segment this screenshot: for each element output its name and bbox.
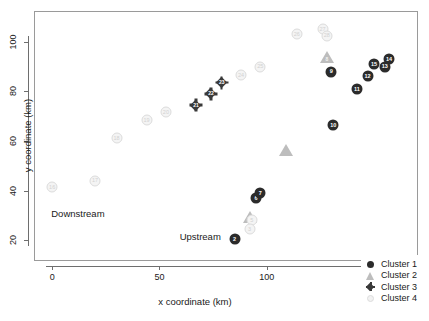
x-axis-tick-label: 0 [50,272,55,282]
point-label: 8 [324,57,330,62]
x-axis-line [46,266,380,267]
point-label: 11 [354,86,360,92]
y-axis-tick-label: 40 [8,182,18,200]
marker-c1: 12 [362,71,373,82]
legend: Cluster 1 Cluster 2 Cluster 3 Cluster 4 [361,255,421,308]
marker-c4: 3 [244,224,255,235]
point-label: 17 [92,178,98,184]
point-label: 14 [386,56,392,62]
plot-annotation: Downstream [51,207,104,218]
marker-c4: 24 [236,70,247,81]
data-point: 28 [321,30,332,41]
y-axis-tick-label: 80 [8,82,18,100]
marker-c4: 19 [141,114,152,125]
marker-c1: 11 [351,83,362,94]
data-point: 17 [90,175,101,186]
data-point: 19 [141,114,152,125]
scatter-plot-figure: 05010015020406080100 2679101112151314482… [0,0,429,321]
marker-c2 [279,144,293,156]
filled-circle-icon [364,258,378,269]
point-label: 2 [233,236,236,242]
x-axis-tick [159,266,160,270]
legend-item-cluster-2[interactable]: Cluster 2 [364,270,417,281]
point-label: 23 [216,80,227,85]
data-point: 3 [244,224,255,235]
y-axis-tick [24,42,28,43]
y-axis-tick-label: 100 [8,33,18,51]
point-label: 21 [190,102,201,107]
x-axis-tick-label: 100 [259,272,274,282]
marker-c1: 15 [369,59,380,70]
legend-item-cluster-4[interactable]: Cluster 4 [364,293,417,304]
data-point: 26 [291,29,302,40]
point-label: 28 [324,33,330,39]
filled-triangle-icon [364,270,378,281]
data-point: 11 [351,83,362,94]
point-label: 19 [144,117,150,123]
data-point: 7 [255,188,266,199]
marker-c3: 23 [216,77,227,88]
data-point: 14 [384,54,395,65]
point-label: 3 [248,226,251,232]
point-label: 16 [49,184,55,190]
legend-label: Cluster 3 [381,282,417,292]
point-label: 24 [238,72,244,78]
point-label: 10 [330,122,336,128]
point-label: 15 [371,61,377,67]
marker-c3: 22 [205,88,216,99]
data-point: 18 [111,133,122,144]
data-point [279,144,293,156]
marker-c2: 8 [320,51,334,63]
marker-c1: 9 [326,66,337,77]
point-label: 25 [257,64,263,70]
legend-label: Cluster 2 [381,270,417,280]
marker-c1: 2 [229,233,240,244]
marker-c4: 18 [111,133,122,144]
legend-label: Cluster 1 [381,259,417,269]
y-axis-tick-label: 20 [8,231,18,249]
y-axis-title: y coordinate (km) [22,81,33,191]
plot-area-frame [34,11,418,261]
point-label: 5 [250,218,253,224]
data-point: 25 [255,61,266,72]
legend-item-cluster-1[interactable]: Cluster 1 [364,258,417,269]
y-axis-tick-label: 60 [8,132,18,150]
data-point: 12 [362,71,373,82]
x-axis-tick [52,266,53,270]
legend-label: Cluster 4 [381,293,417,303]
marker-c4: 17 [90,175,101,186]
marker-c4: 25 [255,61,266,72]
y-axis-tick [24,240,28,241]
marker-c4: 20 [160,107,171,118]
open-circle-icon [364,293,378,304]
point-label: 9 [330,69,333,75]
data-point: 15 [369,59,380,70]
marker-c4: 28 [321,30,332,41]
plot-annotation: Upstream [180,231,221,242]
data-point: 16 [47,181,58,192]
x-axis-tick-label: 50 [154,272,164,282]
data-point: 23 [216,77,227,88]
filled-diamond-icon [364,281,378,292]
data-point: 24 [236,70,247,81]
point-label: 18 [113,136,119,142]
marker-c1: 7 [255,188,266,199]
marker-c1: 10 [328,119,339,130]
x-axis-tick [267,266,268,270]
chart-title [0,0,429,9]
data-point: 21 [190,100,201,111]
data-point: 9 [326,66,337,77]
data-point: 20 [160,107,171,118]
marker-c4: 16 [47,181,58,192]
point-label: 20 [163,110,169,116]
data-point: 22 [205,88,216,99]
point-label: 12 [365,74,371,80]
x-axis-title: x coordinate (km) [158,296,231,307]
data-point: 2 [229,233,240,244]
point-label: 13 [382,64,388,70]
marker-c3: 21 [190,100,201,111]
legend-item-cluster-3[interactable]: Cluster 3 [364,281,417,292]
marker-c1: 14 [384,54,395,65]
point-label: 26 [294,32,300,38]
point-label: 22 [205,91,216,96]
